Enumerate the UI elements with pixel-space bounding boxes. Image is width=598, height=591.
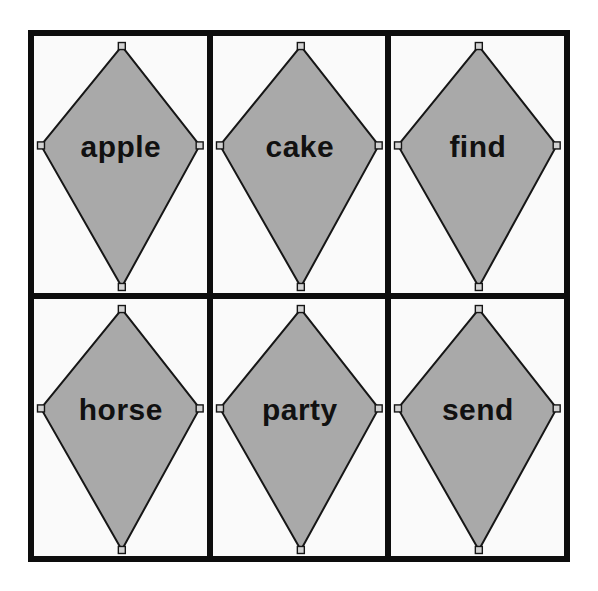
kite-corner-handle-right	[375, 405, 382, 412]
kite-graphic: party	[213, 299, 386, 556]
flashcard-cake: cake	[213, 36, 386, 293]
kite-corner-handle-bottom	[476, 283, 483, 290]
kite-word-label: apple	[80, 130, 161, 163]
kite-corner-handle-top	[297, 43, 304, 50]
flashcard-send: send	[391, 299, 564, 556]
kite-corner-handle-left	[216, 142, 223, 149]
kite-word-label: party	[262, 393, 338, 426]
kite-corner-handle-right	[375, 142, 382, 149]
kite-body	[220, 46, 379, 287]
kite-graphic: horse	[34, 299, 207, 556]
flashcard-find: find	[391, 36, 564, 293]
kite-corner-handle-bottom	[118, 546, 125, 553]
kite-word-label: find	[450, 130, 507, 163]
kite-word-label: horse	[79, 393, 163, 426]
kite-body	[398, 309, 557, 550]
kite-graphic: find	[391, 36, 564, 293]
kite-corner-handle-top	[297, 306, 304, 313]
kite-body	[41, 309, 200, 550]
kite-corner-handle-right	[196, 142, 203, 149]
kite-body	[220, 309, 379, 550]
kite-corner-handle-left	[37, 142, 44, 149]
flashcard-apple: apple	[34, 36, 207, 293]
kite-corner-handle-top	[118, 43, 125, 50]
kite-corner-handle-bottom	[476, 546, 483, 553]
flashcard-grid: apple cake find	[28, 30, 570, 562]
kite-graphic: cake	[213, 36, 386, 293]
kite-body	[41, 46, 200, 287]
kite-corner-handle-left	[395, 405, 402, 412]
kite-body	[398, 46, 557, 287]
kite-word-label: send	[442, 393, 514, 426]
kite-corner-handle-bottom	[297, 546, 304, 553]
flashcard-horse: horse	[34, 299, 207, 556]
kite-corner-handle-top	[118, 306, 125, 313]
kite-corner-handle-bottom	[297, 283, 304, 290]
kite-graphic: apple	[34, 36, 207, 293]
kite-corner-handle-right	[554, 405, 561, 412]
flashcard-party: party	[213, 299, 386, 556]
worksheet-page: apple cake find	[0, 0, 598, 591]
kite-corner-handle-top	[476, 43, 483, 50]
kite-corner-handle-right	[554, 142, 561, 149]
kite-corner-handle-left	[395, 142, 402, 149]
kite-corner-handle-top	[476, 306, 483, 313]
kite-corner-handle-left	[216, 405, 223, 412]
kite-corner-handle-right	[196, 405, 203, 412]
kite-corner-handle-left	[37, 405, 44, 412]
kite-corner-handle-bottom	[118, 283, 125, 290]
kite-graphic: send	[391, 299, 564, 556]
kite-word-label: cake	[265, 130, 334, 163]
